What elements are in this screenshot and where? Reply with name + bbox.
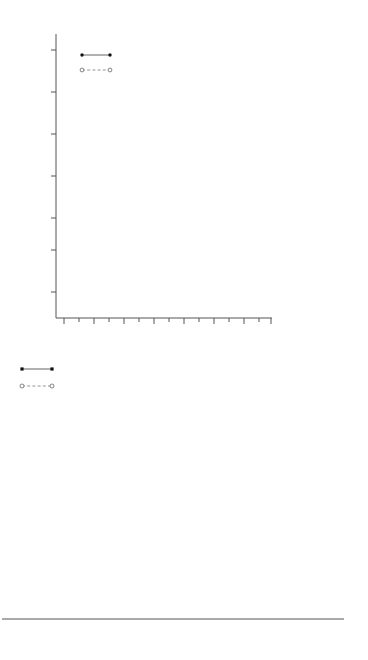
bottom-legend-girls-marker-right bbox=[50, 384, 54, 388]
growth-chart-figure bbox=[0, 0, 368, 660]
bottom-legend-girls-marker-left bbox=[20, 384, 24, 388]
bottom-legend bbox=[20, 367, 54, 388]
bottom-legend-boys-marker-right bbox=[50, 367, 53, 370]
top-x-ticks bbox=[64, 318, 271, 324]
bottom-legend-boys-marker-left bbox=[20, 367, 23, 370]
bottom-panel bbox=[2, 367, 344, 619]
top-legend-girls-marker-left bbox=[80, 68, 84, 72]
top-legend bbox=[80, 53, 112, 72]
top-legend-boys-marker-right bbox=[108, 53, 111, 56]
top-panel bbox=[51, 34, 272, 324]
top-legend-girls-marker-right bbox=[108, 68, 112, 72]
figure-svg bbox=[0, 0, 368, 660]
top-legend-boys-marker-left bbox=[80, 53, 83, 56]
top-y-ticks bbox=[51, 50, 56, 292]
